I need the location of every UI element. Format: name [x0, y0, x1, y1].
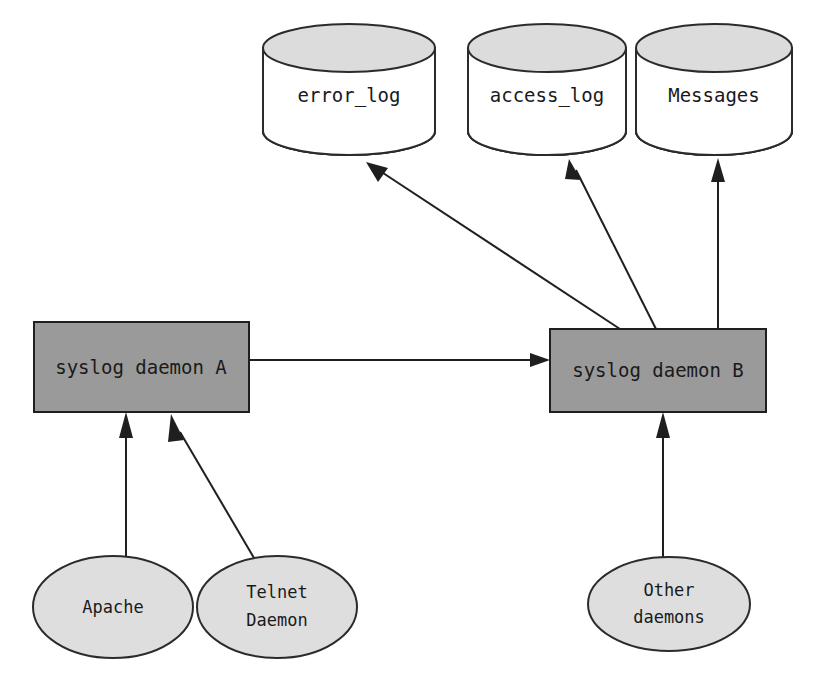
- messages-cylinder-top: [636, 24, 792, 72]
- node-telnet-daemon[interactable]: Telnet Daemon: [197, 556, 357, 658]
- syslog-daemon-a-label: syslog daemon A: [55, 356, 227, 378]
- edge-apache-to-a-arrowhead: [119, 412, 133, 438]
- edge-a-to-b: [249, 353, 550, 367]
- access-log-label: access_log: [490, 84, 604, 107]
- edge-other-to-b: [656, 412, 670, 560]
- syslog-diagram: error_log access_log Messages syslog dae…: [0, 0, 823, 691]
- other-daemons-label-line1: Other: [643, 580, 694, 600]
- apache-label: Apache: [82, 597, 143, 617]
- edge-apache-to-a: [119, 412, 133, 558]
- edge-b-to-access-log-arrowhead: [565, 159, 581, 180]
- error-log-cylinder-top: [263, 24, 435, 72]
- edge-telnet-to-a-arrowhead: [168, 414, 184, 442]
- telnet-daemon-label-line1: Telnet: [246, 582, 307, 602]
- telnet-daemon-ellipse: [197, 556, 357, 658]
- edge-b-to-error-log-line: [377, 169, 620, 329]
- diagram-canvas: error_log access_log Messages syslog dae…: [0, 0, 823, 691]
- node-syslog-daemon-b[interactable]: syslog daemon B: [550, 329, 766, 412]
- node-messages[interactable]: Messages: [636, 24, 792, 155]
- telnet-daemon-label-line2: Daemon: [246, 610, 307, 630]
- edge-telnet-to-a-line: [180, 432, 254, 558]
- access-log-cylinder-top: [468, 24, 626, 72]
- node-other-daemons[interactable]: Other daemons: [588, 557, 750, 651]
- node-access-log[interactable]: access_log: [468, 24, 626, 155]
- node-syslog-daemon-a[interactable]: syslog daemon A: [34, 322, 249, 412]
- node-error-log[interactable]: error_log: [263, 24, 435, 155]
- other-daemons-label-line2: daemons: [633, 607, 705, 627]
- edge-a-to-b-arrowhead: [530, 353, 550, 367]
- edge-telnet-to-a: [168, 414, 254, 558]
- edge-b-to-access-log: [565, 159, 656, 329]
- edge-other-to-b-arrowhead: [656, 412, 670, 438]
- edge-b-to-messages: [711, 158, 725, 329]
- node-apache[interactable]: Apache: [33, 556, 193, 658]
- other-daemons-ellipse: [588, 557, 750, 651]
- messages-label: Messages: [668, 84, 760, 106]
- edge-b-to-error-log: [366, 162, 620, 329]
- edge-b-to-messages-arrowhead: [711, 158, 725, 182]
- edge-b-to-error-log-arrowhead: [366, 162, 388, 182]
- syslog-daemon-b-label: syslog daemon B: [572, 359, 744, 381]
- error-log-label: error_log: [298, 84, 401, 107]
- edge-b-to-access-log-line: [576, 170, 656, 329]
